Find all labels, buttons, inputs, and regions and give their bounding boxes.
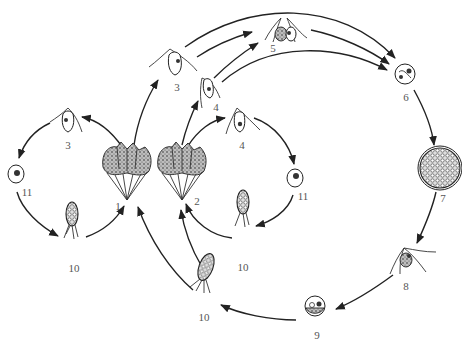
edge-4b-to-11b	[254, 118, 294, 164]
label-8: 8	[403, 281, 409, 292]
label-1: 1	[115, 201, 121, 212]
label-3b: 3	[174, 82, 180, 93]
encysted-cell-11b	[287, 169, 303, 187]
colony-1	[103, 142, 151, 200]
label-10b: 10	[238, 262, 249, 273]
biflagellate-cell-3b	[149, 49, 197, 75]
edge-11a-to-10a	[17, 192, 58, 236]
edge-10c-to-1	[138, 207, 193, 290]
label-11a: 11	[22, 187, 33, 198]
label-10c: 10	[199, 312, 210, 323]
life-cycle-diagram: 1 2 3 3 4 4 5 6 7 8 9 10 10 10 11 11	[0, 0, 462, 347]
label-7: 7	[440, 193, 446, 204]
edge-8-to-9	[336, 275, 393, 309]
zygote-6	[395, 64, 415, 84]
round-cell-9	[305, 296, 325, 316]
edge-1-to-3a	[82, 117, 123, 148]
edge-7-to-8	[417, 192, 436, 243]
label-3a: 3	[65, 140, 71, 151]
edge-2-to-4b	[188, 118, 225, 146]
germling-10a	[64, 202, 78, 239]
edge-10c-to-2	[181, 210, 202, 267]
colony-2	[158, 142, 206, 200]
label-2: 2	[194, 196, 200, 207]
label-10a: 10	[69, 263, 80, 274]
edge-3a-to-11a	[19, 123, 50, 158]
label-4b: 4	[239, 140, 245, 151]
germling-10b	[235, 190, 249, 227]
cyst-7	[418, 146, 462, 190]
edge-2-to-4a	[182, 101, 198, 145]
edges	[17, 13, 436, 320]
edge-9-to-10c	[221, 305, 296, 320]
edge-5-to-6	[311, 30, 389, 64]
label-5: 5	[270, 43, 276, 54]
fusing-cells-5	[265, 18, 307, 42]
edge-1-to-3b	[134, 80, 158, 145]
biflagellate-cell-3a	[50, 108, 82, 132]
edge-10b-to-2	[186, 204, 232, 238]
germling-10c	[190, 251, 217, 293]
diagram-canvas	[0, 0, 462, 347]
label-9: 9	[314, 330, 320, 341]
multiflagellate-cell-8	[390, 248, 436, 274]
label-11b: 11	[298, 191, 309, 202]
edge-11b-to-10b	[256, 195, 293, 226]
label-4a: 4	[213, 102, 219, 113]
edge-4a-to-6	[222, 51, 387, 82]
encysted-cell-11a	[8, 165, 24, 183]
biflagellate-cell-4b	[226, 108, 260, 134]
label-6: 6	[403, 92, 409, 103]
edge-4a-to-5	[214, 43, 258, 78]
edge-6-to-7	[414, 90, 434, 145]
